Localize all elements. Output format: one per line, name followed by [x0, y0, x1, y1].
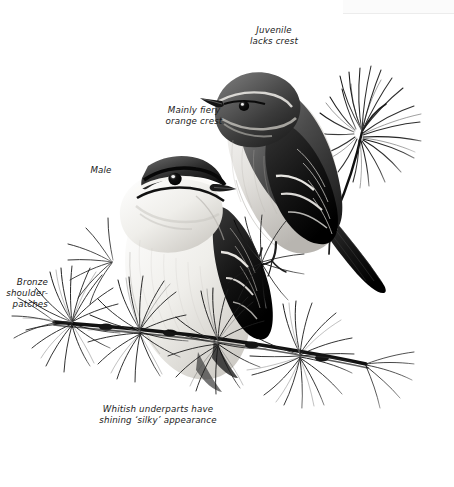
label-juvenile-lacks-crest: Juvenile lacks crest [233, 25, 315, 47]
illustration-plate: Juvenile lacks crest Mainly fiery orange… [0, 0, 454, 487]
label-bronze-shoulder-patches: Bronze shoulder- patches [0, 277, 48, 311]
label-mainly-fiery-orange-crest: Mainly fiery orange crest [146, 105, 242, 127]
label-whitish-underparts: Whitish underparts have shining ‘silky’ … [88, 404, 228, 426]
label-male: Male [80, 165, 122, 176]
pine-sprig-left [68, 218, 113, 304]
needle-tip-right [366, 352, 414, 408]
